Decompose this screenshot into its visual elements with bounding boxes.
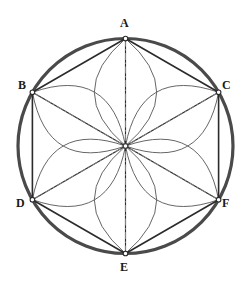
hexagon-edge-AB: [32, 39, 125, 93]
vertex-label-B: B: [18, 79, 26, 91]
vertex-marker-C: [216, 90, 221, 95]
vertex-marker-A: [123, 36, 128, 41]
vertex-marker-B: [30, 90, 35, 95]
vertex-marker-D: [30, 197, 35, 202]
hexagon-edge-CA: [126, 39, 219, 93]
vertex-label-F: F: [222, 197, 229, 209]
geometry-figure: A B C D F E: [0, 0, 252, 292]
vertex-label-D: D: [16, 197, 25, 209]
center-point-marker: [123, 144, 128, 149]
figure-canvas: [0, 0, 252, 292]
vertex-marker-F: [216, 197, 221, 202]
vertex-marker-E: [123, 251, 128, 256]
hexagon-edge-EF: [126, 200, 219, 254]
vertex-label-A: A: [120, 17, 129, 29]
hexagon-edge-DE: [32, 200, 125, 254]
vertex-label-E: E: [120, 261, 128, 273]
vertex-label-C: C: [222, 79, 231, 91]
